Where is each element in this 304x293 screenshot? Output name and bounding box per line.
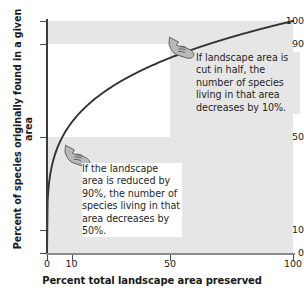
y-tick-0	[40, 253, 46, 254]
callout-cut-in-half: If landscape area is cut in half, the nu…	[196, 52, 300, 114]
y-axis-title: Percent of species originally found in a…	[12, 4, 34, 254]
y-tick-10	[40, 230, 46, 231]
y-tick-100	[40, 21, 46, 22]
y-axis-line	[46, 19, 48, 255]
x-label-100: 100	[273, 259, 304, 269]
y-label-50: 50	[260, 132, 304, 142]
callout-reduced-90-text: If the landscape area is reduced by 90%,…	[82, 163, 182, 237]
y-label-100: 100	[260, 16, 304, 26]
x-axis-title: Percent total landscape area preserved	[0, 275, 304, 286]
y-tick-50	[40, 137, 46, 138]
x-label-10: 10	[52, 259, 92, 269]
x-label-50: 50	[150, 259, 190, 269]
y-label-90: 90	[260, 39, 304, 49]
callout-reduced-90: If the landscape area is reduced by 90%,…	[82, 163, 182, 237]
callout-cut-in-half-text: If landscape area is cut in half, the nu…	[196, 52, 300, 114]
y-tick-90	[40, 44, 46, 45]
species-area-chart: 100 90 50 10 0 0 10 50 100 Percent of sp…	[0, 0, 304, 293]
pointing-hand-icon	[166, 34, 200, 60]
y-label-10: 10	[260, 225, 304, 235]
y-label-0: 0	[260, 248, 304, 258]
